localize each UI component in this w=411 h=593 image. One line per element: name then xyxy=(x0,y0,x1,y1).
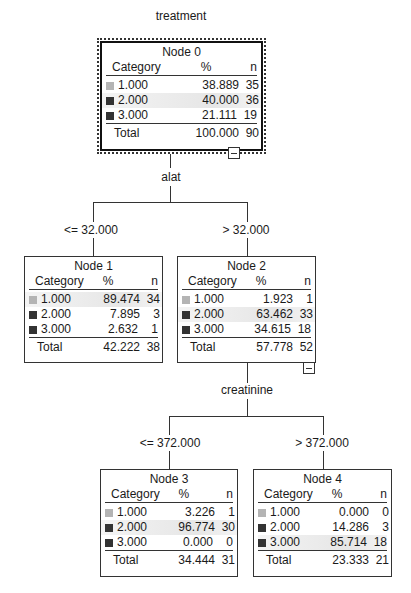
category-row: 3.00021.11119 xyxy=(106,108,257,124)
header-percent: % xyxy=(84,274,133,289)
category-row: 2.0007.8953 xyxy=(25,307,162,322)
category-cell: 2.000 xyxy=(106,93,183,108)
total-n: 52 xyxy=(293,338,313,356)
node-2-collapse-button[interactable] xyxy=(303,362,315,374)
n-value: 1 xyxy=(215,505,235,520)
category-cell: 3.000 xyxy=(105,535,157,550)
category-color-swatch-icon xyxy=(29,311,37,319)
category-row: 2.00063.46233 xyxy=(178,307,315,322)
category-color-swatch-icon xyxy=(258,509,266,517)
percent-value: 14.286 xyxy=(313,520,369,535)
connector xyxy=(247,238,248,256)
category-value: 2.000 xyxy=(194,307,224,322)
category-value: 1.000 xyxy=(270,505,300,520)
category-value: 3.000 xyxy=(118,108,148,123)
total-percent: 100.000 xyxy=(183,124,239,142)
header-category: Category xyxy=(29,274,84,289)
n-value: 1 xyxy=(138,322,158,337)
category-color-swatch-icon xyxy=(182,311,190,319)
header-percent: % xyxy=(237,274,286,289)
category-value: 2.000 xyxy=(270,520,300,535)
category-color-swatch-icon xyxy=(105,539,113,547)
category-value: 1.000 xyxy=(118,78,148,93)
header-category: Category xyxy=(258,487,313,502)
total-label: Total xyxy=(190,338,237,356)
category-row: 1.0001.9231 xyxy=(178,292,315,307)
percent-value: 89.474 xyxy=(84,292,140,307)
total-row: Total 42.222 38 xyxy=(25,338,162,356)
category-value: 1.000 xyxy=(117,505,147,520)
category-row: 1.0003.2261 xyxy=(101,505,237,520)
node-title: Node 3 xyxy=(101,471,237,487)
total-label: Total xyxy=(114,124,183,142)
connector xyxy=(169,451,170,469)
category-cell: 3.000 xyxy=(258,535,311,550)
n-value: 18 xyxy=(367,535,387,550)
connector xyxy=(93,238,94,256)
node-3[interactable]: Node 3 Category % n 1.0003.22612.00096.7… xyxy=(100,469,238,577)
category-rows: 1.00089.474342.0007.89533.0002.6321 xyxy=(25,292,162,338)
category-value: 2.000 xyxy=(117,520,147,535)
node-4[interactable]: Node 4 Category % n 1.0000.00002.00014.2… xyxy=(253,469,392,577)
split-condition-left: <= 32.000 xyxy=(64,223,118,237)
category-cell: 2.000 xyxy=(182,307,237,322)
n-value: 33 xyxy=(293,307,313,322)
category-cell: 3.000 xyxy=(106,108,181,123)
split-variable-alat: alat xyxy=(161,170,180,184)
node-title: Node 2 xyxy=(178,258,315,274)
category-color-swatch-icon xyxy=(258,539,266,547)
category-rows: 1.0001.92312.00063.462333.00034.61518 xyxy=(178,292,315,338)
total-label: Total xyxy=(37,338,84,356)
node-0-collapse-button[interactable] xyxy=(228,147,240,159)
connector xyxy=(93,202,248,203)
category-cell: 1.000 xyxy=(182,292,237,307)
connector xyxy=(93,202,94,222)
percent-value: 38.889 xyxy=(183,78,239,93)
node-table-header: Category % n xyxy=(106,60,257,76)
total-percent: 34.444 xyxy=(159,551,215,569)
header-percent: % xyxy=(313,487,362,502)
connector xyxy=(170,154,171,168)
split-condition-right: > 32.000 xyxy=(222,223,269,237)
header-n: n xyxy=(231,60,257,75)
header-percent: % xyxy=(181,60,231,75)
category-row: 2.00096.77430 xyxy=(101,520,237,535)
category-row: 3.0000.0000 xyxy=(105,535,233,551)
split-variable-creatinine: creatinine xyxy=(221,383,273,397)
category-color-swatch-icon xyxy=(258,524,266,532)
node-0[interactable]: Node 0 Category % n 1.00038.889352.00040… xyxy=(100,41,263,151)
node-table-header: Category % n xyxy=(258,487,387,503)
category-rows: 1.0000.00002.00014.28633.00085.71418 xyxy=(254,505,391,551)
n-value: 0 xyxy=(369,505,389,520)
node-2[interactable]: Node 2 Category % n 1.0001.92312.00063.4… xyxy=(177,256,316,363)
node-title: Node 0 xyxy=(102,44,261,60)
n-value: 36 xyxy=(239,93,259,108)
node-table-header: Category % n xyxy=(105,487,233,503)
header-n: n xyxy=(362,487,387,502)
node-table-header: Category % n xyxy=(29,274,158,290)
percent-value: 0.000 xyxy=(313,505,369,520)
category-cell: 1.000 xyxy=(258,505,313,520)
target-variable-label: treatment xyxy=(156,9,207,23)
category-row: 3.00085.71418 xyxy=(258,535,387,551)
node-1[interactable]: Node 1 Category % n 1.00089.474342.0007.… xyxy=(24,256,163,363)
category-color-swatch-icon xyxy=(105,524,113,532)
connector xyxy=(247,202,248,222)
category-color-swatch-icon xyxy=(182,296,190,304)
category-row: 3.0002.6321 xyxy=(29,322,158,338)
total-n: 21 xyxy=(369,551,389,569)
header-percent: % xyxy=(160,487,208,502)
percent-value: 63.462 xyxy=(237,307,293,322)
header-n: n xyxy=(286,274,311,289)
category-row: 2.00014.2863 xyxy=(254,520,391,535)
total-percent: 57.778 xyxy=(237,338,293,356)
header-category: Category xyxy=(106,60,181,75)
n-value: 0 xyxy=(213,535,233,550)
percent-value: 40.000 xyxy=(183,93,239,108)
category-rows: 1.0003.22612.00096.774303.0000.0000 xyxy=(101,505,237,551)
percent-value: 0.000 xyxy=(157,535,213,550)
category-value: 2.000 xyxy=(118,93,148,108)
total-row: Total 34.444 31 xyxy=(101,551,237,569)
category-value: 3.000 xyxy=(117,535,147,550)
split-condition-left: <= 372.000 xyxy=(140,436,201,450)
